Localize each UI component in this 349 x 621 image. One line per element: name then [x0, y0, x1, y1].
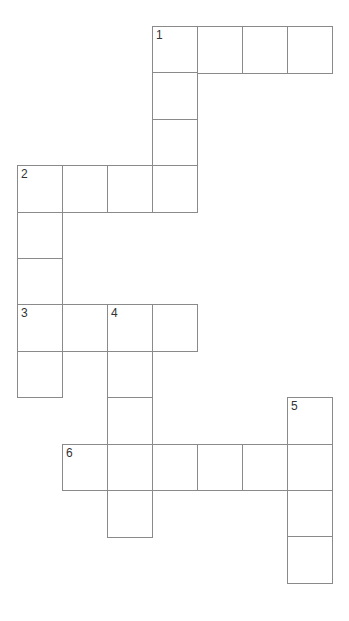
- crossword-cell[interactable]: 2: [17, 165, 63, 213]
- crossword-cell[interactable]: [152, 119, 198, 167]
- crossword-cell[interactable]: [287, 490, 333, 538]
- crossword-cell[interactable]: [287, 444, 333, 492]
- crossword-cell[interactable]: [152, 444, 198, 492]
- crossword-cell[interactable]: [197, 444, 243, 492]
- crossword-cell[interactable]: 3: [17, 304, 63, 352]
- crossword-cell[interactable]: [152, 72, 198, 120]
- crossword-cell[interactable]: [242, 444, 288, 492]
- clue-number: 2: [21, 167, 28, 181]
- crossword-cell[interactable]: 1: [152, 26, 198, 74]
- crossword-cell[interactable]: [107, 165, 153, 213]
- crossword-cell[interactable]: [107, 351, 153, 399]
- clue-number: 4: [111, 306, 118, 320]
- crossword-cell[interactable]: [287, 536, 333, 584]
- crossword-cell[interactable]: [17, 258, 63, 306]
- crossword-cell[interactable]: [107, 397, 153, 445]
- crossword-cell[interactable]: 4: [107, 304, 153, 352]
- crossword-cell[interactable]: [107, 444, 153, 492]
- crossword-cell[interactable]: [17, 351, 63, 399]
- crossword-cell[interactable]: [62, 165, 108, 213]
- crossword-grid: 123456: [0, 0, 349, 621]
- crossword-cell[interactable]: [152, 304, 198, 352]
- clue-number: 5: [291, 399, 298, 413]
- crossword-cell[interactable]: 5: [287, 397, 333, 445]
- crossword-cell[interactable]: [107, 490, 153, 538]
- crossword-cell[interactable]: [62, 304, 108, 352]
- clue-number: 3: [21, 306, 28, 320]
- crossword-cell[interactable]: [242, 26, 288, 74]
- clue-number: 1: [156, 28, 163, 42]
- crossword-cell[interactable]: [197, 26, 243, 74]
- crossword-cell[interactable]: [152, 165, 198, 213]
- crossword-cell[interactable]: [287, 26, 333, 74]
- crossword-cell[interactable]: [17, 212, 63, 260]
- clue-number: 6: [66, 446, 73, 460]
- crossword-cell[interactable]: 6: [62, 444, 108, 492]
